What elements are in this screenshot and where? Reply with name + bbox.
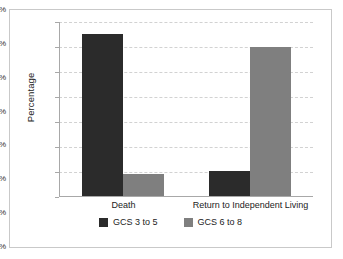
bar-group [60, 22, 187, 196]
legend-label: GCS 6 to 8 [198, 217, 243, 227]
y-tick-label: 30% [0, 141, 6, 149]
chart-figure: Percentage 70% 60% 50% 40% 30% 20% 10% 0… [9, 9, 332, 248]
y-tick-mark [55, 172, 59, 173]
bars-layer [60, 22, 313, 196]
bar[interactable] [250, 47, 291, 196]
y-axis-title: Percentage [24, 10, 38, 185]
legend-item[interactable]: GCS 6 to 8 [184, 217, 243, 227]
chart-legend: GCS 3 to 5 GCS 6 to 8 [10, 217, 331, 227]
y-tick-mark [55, 72, 59, 73]
y-axis-title-label: Percentage [26, 73, 37, 123]
legend-swatch-icon [184, 218, 193, 227]
legend-swatch-icon [99, 218, 108, 227]
y-tick-mark [55, 22, 59, 23]
x-tick-label: Death [60, 200, 187, 210]
bar-group [187, 22, 314, 196]
y-tick-label: 20% [0, 175, 6, 183]
plot-area [59, 22, 313, 197]
y-tick-mark [55, 197, 59, 198]
legend-item[interactable]: GCS 3 to 5 [99, 217, 158, 227]
y-tick-mark [55, 47, 59, 48]
bar[interactable] [82, 34, 123, 196]
y-tick-mark [55, 97, 59, 98]
bar[interactable] [209, 171, 250, 196]
x-axis-tick-labels: Death Return to Independent Living [60, 200, 314, 210]
y-tick-mark [55, 147, 59, 148]
x-tick-label: Return to Independent Living [187, 200, 314, 210]
y-tick-label: 50% [0, 74, 6, 82]
y-tick-label: 0% [0, 243, 6, 251]
bar[interactable] [123, 174, 164, 196]
y-tick-mark [55, 122, 59, 123]
y-tick-label: 60% [0, 40, 6, 48]
y-tick-label: 40% [0, 108, 6, 116]
y-tick-label: 10% [0, 209, 6, 217]
y-tick-label: 70% [0, 6, 6, 14]
y-axis-tick-labels: 70% 60% 50% 40% 30% 20% 10% 0% [0, 10, 6, 247]
x-axis-line [59, 196, 313, 197]
legend-label: GCS 3 to 5 [113, 217, 158, 227]
